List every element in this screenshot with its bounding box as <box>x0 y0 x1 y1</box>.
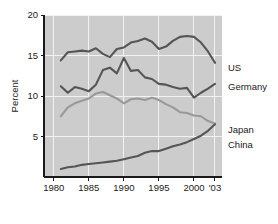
y-axis-title: Percent <box>9 79 20 112</box>
y-tick-label: 10 <box>27 90 38 101</box>
y-axis-tick-labels: 5101520 <box>27 9 38 142</box>
y-tick-label: 15 <box>27 50 38 61</box>
x-axis-tick-labels: 19801985199019952000'03 <box>43 182 221 193</box>
series-label-us: US <box>228 62 241 73</box>
line-chart: 5101520 19801985199019952000'03 Percent … <box>0 0 278 224</box>
y-tick-label: 20 <box>27 9 38 20</box>
x-tick-label: 2000 <box>183 182 204 193</box>
chart-figure: 5101520 19801985199019952000'03 Percent … <box>0 0 278 224</box>
x-tick-label: 1985 <box>78 182 99 193</box>
x-tick-label: 1995 <box>148 182 169 193</box>
series-label-japan: Japan <box>228 124 254 135</box>
x-tick-label: '03 <box>209 182 221 193</box>
series-label-germany: Germany <box>228 81 267 92</box>
series-label-china: China <box>228 139 254 150</box>
x-tick-label: 1980 <box>43 182 64 193</box>
series-labels-group: USGermanyJapanChina <box>228 62 267 150</box>
x-tick-label: 1990 <box>113 182 134 193</box>
y-tick-label: 5 <box>33 131 38 142</box>
